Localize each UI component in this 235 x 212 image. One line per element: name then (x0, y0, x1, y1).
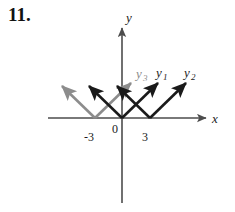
curve-label-y3: y 3 (134, 66, 148, 83)
coordinate-plane-figure: y x 0 -3 3 y 3 y 1 y 2 (0, 0, 235, 212)
curve-label-y2: y 2 (182, 65, 196, 82)
tick-label-3: 3 (142, 130, 148, 144)
curve-label-y3-subscript: 3 (142, 73, 148, 83)
curve-label-y1-base: y (154, 65, 162, 80)
axes-group (48, 28, 206, 203)
curve-label-y1-subscript: 1 (163, 72, 168, 82)
curve-y3-left-branch (62, 86, 95, 118)
origin-label: 0 (112, 122, 118, 136)
tick-label-neg3: -3 (84, 130, 94, 144)
curve-y2-right-branch (150, 83, 186, 118)
curve-y1-left-branch (89, 86, 122, 118)
x-axis-label: x (211, 111, 218, 126)
y-axis-label: y (124, 10, 132, 25)
curve-label-y2-base: y (182, 65, 190, 80)
curve-label-y1: y 1 (154, 65, 168, 82)
curve-label-y2-subscript: 2 (191, 72, 196, 82)
curve-label-y3-base: y (134, 66, 142, 81)
